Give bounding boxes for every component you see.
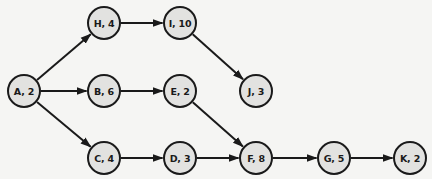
edge-a-to-h xyxy=(37,34,91,80)
node-h: H, 4 xyxy=(87,6,121,40)
node-i: I, 10 xyxy=(163,6,197,40)
node-d: D, 3 xyxy=(163,141,197,175)
node-j: J, 3 xyxy=(239,74,273,108)
node-b: B, 6 xyxy=(87,74,121,108)
node-k: K, 2 xyxy=(393,141,427,175)
edge-layer xyxy=(0,0,432,179)
activity-network-diagram: A, 2 H, 4 I, 10 B, 6 E, 2 J, 3 C, 4 D, 3… xyxy=(0,0,432,179)
edge-a-to-c xyxy=(37,102,91,147)
node-a: A, 2 xyxy=(7,74,41,108)
edge-i-to-j xyxy=(193,34,243,79)
node-e: E, 2 xyxy=(163,74,197,108)
node-g: G, 5 xyxy=(317,141,351,175)
node-c: C, 4 xyxy=(87,141,121,175)
edge-e-to-f xyxy=(193,102,243,146)
node-f: F, 8 xyxy=(239,141,273,175)
